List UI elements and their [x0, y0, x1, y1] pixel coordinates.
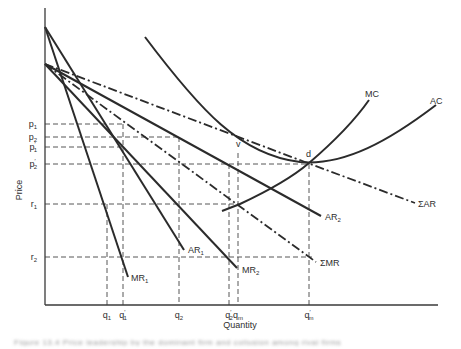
quantity-tick-label: qm — [233, 310, 243, 321]
curve-sigma-ar — [45, 64, 415, 203]
y-axis-title: Price — [14, 180, 24, 201]
curve-mr1 — [45, 27, 128, 277]
quantity-tick-label: q1 — [103, 310, 112, 321]
quantity-tick-label: q′m — [304, 309, 313, 321]
quantity-tick-label: q′1 — [119, 309, 127, 321]
price-tick-label: r2 — [31, 252, 38, 263]
curve-ar2 — [45, 64, 321, 216]
figure-caption: Figure 13.4 Price leadership by the domi… — [14, 338, 344, 346]
curve-label-ac: AC — [430, 96, 443, 106]
point-label-d: d — [306, 149, 311, 159]
price-tick-label: p1 — [29, 119, 38, 130]
curve-mr2 — [45, 64, 237, 268]
x-axis-title: Quantity — [223, 320, 257, 330]
curve-labels: MR1AR1MR2AR2ΣMRΣARACMC — [131, 89, 443, 284]
curve-label-mr2: MR2 — [242, 265, 260, 276]
diagram-canvas: Price Quantity p1p2p′1p′2r1r2q1q′1q2q′2q… — [0, 0, 461, 349]
economics-diagram: Price Quantity p1p2p′1p′2r1r2q1q′1q2q′2q… — [0, 0, 461, 349]
curve-label-mr1: MR1 — [131, 273, 149, 284]
price-tick-label: r1 — [31, 199, 38, 210]
price-tick-label: p′2 — [30, 158, 38, 170]
guide-lines — [45, 124, 312, 305]
curve-label-sigma-mr: ΣMR — [320, 258, 340, 268]
quantity-tick-label: q2 — [175, 310, 184, 321]
curve-label-ar1: AR1 — [188, 245, 205, 256]
curves — [45, 27, 436, 277]
point-label-v: v — [236, 139, 241, 149]
curve-label-sigma-ar: ΣAR — [418, 199, 437, 209]
curve-label-mc: MC — [365, 89, 379, 99]
curve-label-ar2: AR2 — [325, 212, 342, 223]
axes: Price Quantity — [14, 8, 438, 330]
